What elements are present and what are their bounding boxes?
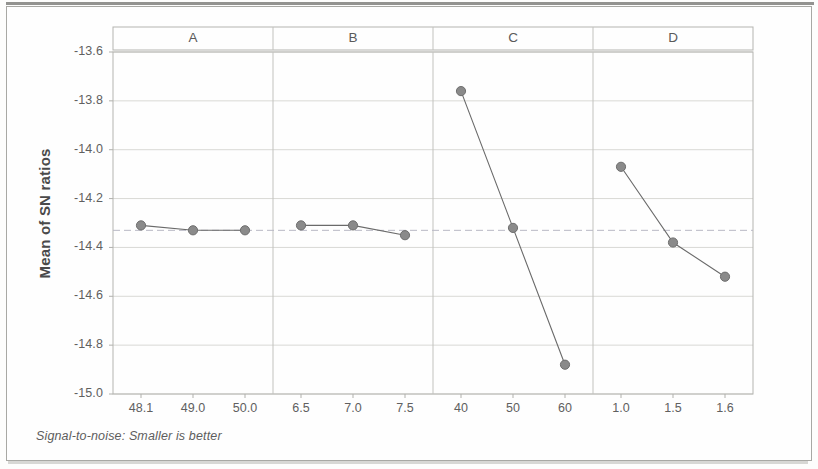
data-point-B-7.5 <box>400 231 409 240</box>
x-tick-label-D-1.6: 1.6 <box>703 401 747 415</box>
x-tick-label-C-40: 40 <box>439 401 483 415</box>
data-point-C-50 <box>508 223 517 232</box>
series-line-panel-D <box>621 167 725 277</box>
data-point-B-7.0 <box>348 221 357 230</box>
y-tick-label-5: -14.6 <box>51 288 103 302</box>
y-tick-label-2: -14.0 <box>51 142 103 156</box>
y-tick-label-3: -14.2 <box>51 191 103 205</box>
x-tick-label-A-48.1: 48.1 <box>119 401 163 415</box>
footnote-caption: Signal-to-noise: Smaller is better <box>36 429 222 443</box>
x-tick-label-C-50: 50 <box>491 401 535 415</box>
y-tick-label-4: -14.4 <box>51 239 103 253</box>
panel-header-C: C <box>433 28 593 48</box>
x-tick-label-A-50.0: 50.0 <box>223 401 267 415</box>
data-point-B-6.5 <box>296 221 305 230</box>
x-tick-label-C-60: 60 <box>543 401 587 415</box>
x-tick-label-B-7.5: 7.5 <box>383 401 427 415</box>
data-point-D-1.5 <box>668 238 677 247</box>
x-tick-label-B-6.5: 6.5 <box>279 401 323 415</box>
x-tick-label-B-7.0: 7.0 <box>331 401 375 415</box>
data-point-D-1.0 <box>616 162 625 171</box>
plot-area-svg <box>0 0 818 469</box>
y-axis-title: Mean of SN ratios <box>36 124 53 304</box>
data-point-A-50.0 <box>240 226 249 235</box>
data-point-A-48.1 <box>136 221 145 230</box>
y-tick-label-0: -13.6 <box>51 44 103 58</box>
y-tick-label-6: -14.8 <box>51 337 103 351</box>
screenshot-page: Mean of SN ratios -13.6-13.8-14.0-14.2-1… <box>0 0 818 469</box>
data-point-C-60 <box>560 360 569 369</box>
x-tick-label-A-49.0: 49.0 <box>171 401 215 415</box>
x-tick-label-D-1.0: 1.0 <box>599 401 643 415</box>
data-point-C-40 <box>456 87 465 96</box>
panel-header-A: A <box>113 28 273 48</box>
data-point-D-1.6 <box>720 272 729 281</box>
panel-header-B: B <box>273 28 433 48</box>
y-tick-label-1: -13.8 <box>51 93 103 107</box>
panel-header-D: D <box>593 28 753 48</box>
x-tick-label-D-1.5: 1.5 <box>651 401 695 415</box>
main-effects-plot: Mean of SN ratios -13.6-13.8-14.0-14.2-1… <box>0 0 818 469</box>
data-point-A-49.0 <box>188 226 197 235</box>
y-tick-label-7: -15.0 <box>51 386 103 400</box>
